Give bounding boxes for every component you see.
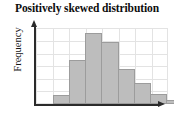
bar (134, 83, 151, 104)
chart-container: Positively skewed distribution Frequency (0, 0, 174, 118)
bar (101, 42, 119, 104)
bar (53, 95, 70, 104)
bar (166, 100, 174, 104)
arrow-right-icon (158, 101, 165, 107)
gridline-horizontal (36, 28, 168, 29)
chart-title: Positively skewed distribution (0, 2, 174, 14)
arrow-up-icon (31, 20, 37, 27)
y-axis-line (34, 26, 36, 105)
y-axis-label: Frequency (12, 22, 23, 78)
bar (69, 60, 86, 104)
bar (118, 69, 135, 104)
plot-area (36, 28, 168, 104)
bar (85, 33, 102, 104)
x-axis-line (34, 104, 159, 106)
